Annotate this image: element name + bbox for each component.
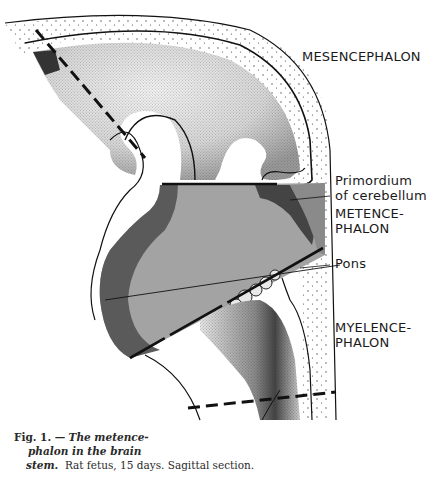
- myelencephalon-outline-left: [145, 355, 200, 420]
- label-metencephalon-line2: PHALON: [335, 221, 389, 236]
- label-mesencephalon: MESENCEPHALON: [302, 49, 421, 64]
- label-primordium-line1: Primordium: [335, 173, 412, 188]
- caption-title-line3: stem.: [26, 459, 58, 471]
- caption-fig-number: Fig. 1. —: [14, 431, 65, 443]
- label-myelencephalon-line2: PHALON: [335, 335, 389, 350]
- label-pons: Pons: [335, 256, 366, 271]
- figure-caption: Fig. 1. — The metence- phalon in the bra…: [14, 430, 254, 472]
- caption-title-line2: phalon in the brain: [14, 444, 254, 458]
- caption-title-line1: The metence-: [69, 431, 149, 443]
- label-myelencephalon-line1: MYELENCE-: [335, 320, 411, 335]
- label-metencephalon-line1: METENCE-: [335, 206, 404, 221]
- brain-stem-diagram: [0, 0, 437, 479]
- caption-description: Rat fetus, 15 days. Sagittal section.: [65, 459, 254, 471]
- label-primordium-line2: of cerebellum: [335, 188, 427, 203]
